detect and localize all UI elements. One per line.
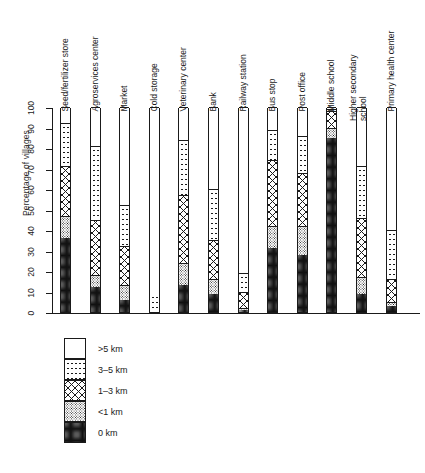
bar-segment	[91, 107, 100, 146]
bar	[208, 108, 219, 313]
y-tick-mark	[46, 231, 53, 232]
bar-segment	[179, 195, 188, 263]
bar	[60, 108, 71, 313]
bar-segment	[387, 107, 396, 230]
category-label: Railway station	[238, 54, 248, 111]
y-tick-mark	[46, 211, 53, 212]
bar-segment	[120, 107, 129, 205]
bar	[267, 108, 278, 313]
bar-segment	[239, 292, 248, 308]
y-tick-mark	[46, 252, 53, 253]
bar-segment	[209, 240, 218, 279]
category-label: Seed/fertilizer store	[61, 38, 71, 111]
bar-segment	[357, 166, 366, 217]
legend: >5 km3–5 km1–3 km<1 km0 km	[64, 338, 264, 443]
bar-segment	[61, 166, 70, 215]
y-tick-mark	[46, 313, 53, 314]
bar-segment	[179, 107, 188, 140]
legend-label: >5 km	[98, 344, 123, 354]
bar-segment	[357, 218, 366, 277]
bar-segment	[268, 130, 277, 161]
legend-label: 3–5 km	[98, 365, 128, 375]
bar-segment	[357, 294, 366, 312]
category-label: Bus stop	[268, 78, 278, 111]
category-label: Post office	[297, 72, 307, 112]
category-label: Bank	[209, 92, 219, 111]
y-tick-mark	[46, 129, 53, 130]
legend-label: 0 km	[98, 428, 118, 438]
bar-segment	[61, 216, 70, 239]
legend-item: 1–3 km	[64, 380, 264, 401]
legend-label: 1–3 km	[98, 386, 128, 396]
bar-segment	[268, 226, 277, 249]
x-axis-baseline	[52, 313, 420, 314]
bar	[386, 108, 397, 313]
bar-segment	[91, 287, 100, 312]
bar-segment	[239, 310, 248, 312]
bar-segment	[209, 189, 218, 240]
bar-segment	[387, 302, 396, 306]
y-tick-mark	[46, 170, 53, 171]
bar-segment	[179, 140, 188, 195]
bar-segment	[327, 111, 336, 127]
bar-segment	[61, 238, 70, 312]
legend-item: <1 km	[64, 401, 264, 422]
bar-segment	[298, 226, 307, 255]
stacked-bar-chart: Percentage of villages 01020304050607080…	[0, 0, 425, 473]
bar-segment	[179, 263, 188, 286]
bar	[178, 108, 189, 313]
legend-swatch	[64, 359, 86, 380]
legend-swatch	[64, 380, 86, 401]
legend-swatch	[64, 401, 86, 422]
y-tick-mark	[46, 190, 53, 191]
y-tick-mark	[46, 293, 53, 294]
bar-segment	[91, 220, 100, 275]
bar	[149, 108, 160, 313]
bar	[356, 108, 367, 313]
bar-segment	[91, 146, 100, 220]
bar-segment	[150, 107, 159, 294]
bar-segment	[91, 275, 100, 287]
category-label: Agroservices center	[90, 36, 100, 111]
category-label: Market	[120, 86, 130, 112]
bar-segment	[209, 294, 218, 312]
bar-segment	[120, 300, 129, 312]
legend-label: <1 km	[98, 407, 123, 417]
bar-segment	[120, 285, 129, 299]
legend-item: 3–5 km	[64, 359, 264, 380]
bar-segment	[209, 107, 218, 189]
bar	[238, 108, 249, 313]
bar-segment	[150, 294, 159, 312]
y-tick-label: 100	[26, 95, 36, 121]
legend-swatch	[64, 338, 86, 359]
y-tick-mark	[46, 108, 53, 109]
category-label: Middle school	[327, 60, 337, 112]
bar	[326, 108, 337, 313]
bar-segment	[179, 285, 188, 312]
bar-segment	[209, 279, 218, 293]
bar	[119, 108, 130, 313]
bar-segment	[357, 277, 366, 293]
category-label: Higher secondary school	[349, 54, 368, 121]
category-label: Cold storage	[149, 63, 159, 111]
bar-segment	[268, 248, 277, 312]
bar	[297, 108, 308, 313]
legend-item: 0 km	[64, 422, 264, 443]
y-tick-mark	[46, 272, 53, 273]
bar-segment	[239, 107, 248, 273]
legend-swatch	[64, 422, 86, 443]
bar-segment	[239, 308, 248, 310]
bar-segment	[387, 306, 396, 312]
bar-segment	[298, 173, 307, 226]
bar-segment	[239, 273, 248, 291]
bar-segment	[268, 160, 277, 226]
bar-segment	[120, 246, 129, 285]
bar	[90, 108, 101, 313]
category-label: Primary health center	[386, 31, 396, 112]
y-tick-mark	[46, 149, 53, 150]
bar-segment	[387, 230, 396, 279]
bar-segment	[327, 138, 336, 312]
category-label: Veterinary center	[179, 47, 189, 111]
bar-segment	[327, 128, 336, 138]
bar-segment	[298, 255, 307, 312]
